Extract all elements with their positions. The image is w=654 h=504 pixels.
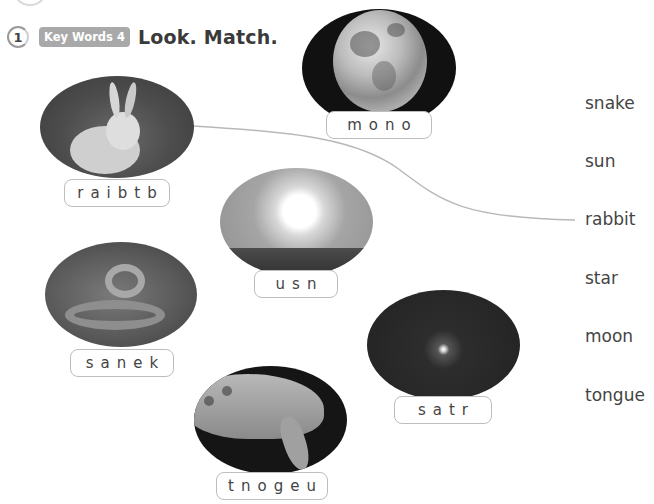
- scrambled-label-tongue: tnogeu: [216, 472, 328, 500]
- moon-crater: [372, 61, 396, 91]
- exercise-header: 1 Key Words 4 Look. Match.: [7, 26, 278, 48]
- rabbit-photo[interactable]: [40, 76, 194, 178]
- scrambled-label-rabbit: raibtb: [64, 179, 170, 207]
- moon-photo[interactable]: [302, 9, 456, 127]
- scrambled-label-moon: mono: [326, 111, 432, 139]
- star-photo[interactable]: [367, 290, 520, 400]
- word-moon[interactable]: moon: [585, 326, 633, 346]
- scrambled-label-sun: usn: [254, 270, 338, 298]
- word-rabbit[interactable]: rabbit: [585, 209, 635, 229]
- scrambled-label-star: satr: [394, 396, 492, 424]
- snake-photo[interactable]: [45, 242, 197, 347]
- instruction-text: Look. Match.: [138, 26, 278, 48]
- snake-coil: [105, 264, 145, 298]
- word-tongue[interactable]: tongue: [585, 385, 645, 405]
- word-star[interactable]: star: [585, 268, 618, 288]
- turtle-spot: [204, 396, 214, 406]
- snake-coil: [65, 300, 165, 330]
- word-sun[interactable]: sun: [585, 151, 615, 171]
- turtle-head: [194, 374, 324, 439]
- rabbit-ear: [108, 82, 122, 119]
- exercise-number: 1: [7, 26, 29, 48]
- tongue-photo[interactable]: [194, 366, 347, 474]
- word-snake[interactable]: snake: [585, 93, 635, 113]
- scrambled-label-snake: sanek: [70, 349, 174, 377]
- turtle-spot: [222, 386, 232, 396]
- rabbit-ear: [122, 81, 138, 118]
- rabbit-head: [106, 112, 140, 150]
- moon-crater: [387, 23, 405, 37]
- key-words-badge: Key Words 4: [39, 27, 130, 47]
- moon-crater: [350, 31, 380, 57]
- decorative-arc: [14, 0, 46, 6]
- sun-photo[interactable]: [220, 168, 373, 276]
